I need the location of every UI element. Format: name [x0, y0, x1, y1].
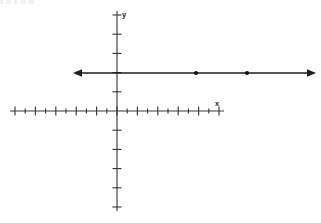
plotted-point [194, 71, 198, 75]
graph-canvas: x y [0, 0, 321, 223]
line-arrow-left-icon [73, 69, 82, 76]
y-axis-label: y [122, 10, 127, 19]
plotted-line-group [73, 69, 316, 76]
plotted-point [245, 71, 249, 75]
line-arrow-right-icon [307, 69, 316, 76]
coordinate-plane-figure: x y [0, 0, 321, 223]
